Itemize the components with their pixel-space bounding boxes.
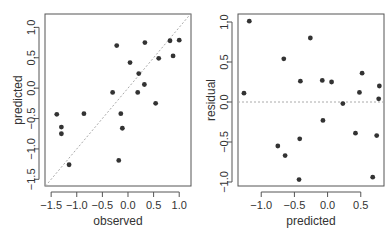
data-point xyxy=(54,112,59,117)
data-point xyxy=(308,36,313,41)
x-tick-label: −1.0 xyxy=(250,199,272,211)
data-point xyxy=(281,56,286,61)
data-point xyxy=(297,177,302,182)
x-tick-label: 0.0 xyxy=(120,199,135,211)
y-axis-label: predicted xyxy=(11,75,25,124)
x-axis: −1.0−0.50.00.5 xyxy=(250,192,368,211)
data-point xyxy=(297,136,302,141)
data-point xyxy=(242,91,247,96)
data-point xyxy=(377,84,382,89)
data-point xyxy=(329,80,334,85)
x-tick-label: −1.0 xyxy=(66,199,88,211)
data-point xyxy=(374,133,379,138)
data-point xyxy=(142,82,147,87)
x-tick-label: 0.5 xyxy=(353,199,368,211)
y-tick-label: 1.0 xyxy=(25,20,37,35)
data-point xyxy=(142,40,147,45)
data-point xyxy=(82,111,87,116)
figure: −1.5−1.0−0.50.00.51.0 −1.5−1.0−0.50.00.5… xyxy=(0,0,392,233)
x-tick-label: −0.5 xyxy=(92,199,114,211)
observed-vs-predicted-plot: −1.5−1.0−0.50.00.51.0 −1.5−1.0−0.50.00.5… xyxy=(11,14,191,228)
data-point xyxy=(340,101,345,106)
data-point xyxy=(128,60,133,65)
data-point xyxy=(168,38,173,43)
x-axis-label: observed xyxy=(93,214,142,228)
data-point xyxy=(320,78,325,83)
y-tick-label: 0.0 xyxy=(218,94,230,109)
x-tick-label: −0.5 xyxy=(284,199,306,211)
x-axis-label: predicted xyxy=(286,214,335,228)
data-point xyxy=(321,118,326,123)
data-point xyxy=(59,125,64,130)
x-tick-label: 0.5 xyxy=(146,199,161,211)
data-point xyxy=(156,56,161,61)
data-point xyxy=(136,71,141,76)
y-tick-label: −0.5 xyxy=(25,108,37,130)
data-point xyxy=(118,111,123,116)
y-tick-label: −1.5 xyxy=(25,168,37,190)
x-tick-label: −1.5 xyxy=(40,199,62,211)
data-point xyxy=(275,144,280,149)
y-tick-label: 1.0 xyxy=(218,14,230,29)
data-point xyxy=(376,96,381,101)
data-point xyxy=(360,71,365,76)
data-point xyxy=(370,175,375,180)
y-tick-label: 0.5 xyxy=(218,54,230,69)
data-point xyxy=(110,90,115,95)
data-point xyxy=(298,79,303,84)
data-point xyxy=(114,43,119,48)
data-point xyxy=(247,19,252,24)
data-point xyxy=(171,54,176,59)
y-tick-label: −1.0 xyxy=(218,171,230,193)
data-point xyxy=(283,153,288,158)
y-tick-label: −1.0 xyxy=(25,138,37,160)
x-axis: −1.5−1.0−0.50.00.51.0 xyxy=(40,192,187,211)
y-tick-label: 0.0 xyxy=(25,80,37,95)
data-point xyxy=(353,131,358,136)
y-axis-label: residual xyxy=(204,79,218,121)
residual-plot: −1.0−0.50.00.5 −1.0−0.50.00.51.0 predict… xyxy=(204,14,384,228)
data-point xyxy=(177,38,182,43)
data-point xyxy=(67,162,72,167)
data-points xyxy=(54,38,181,167)
data-point xyxy=(153,101,158,106)
data-point xyxy=(116,158,121,163)
x-tick-label: 0.0 xyxy=(320,199,335,211)
data-points xyxy=(242,19,382,182)
y-tick-label: 0.5 xyxy=(25,50,37,65)
x-tick-label: 1.0 xyxy=(172,199,187,211)
data-point xyxy=(59,131,64,136)
data-point xyxy=(135,90,140,95)
y-tick-label: −0.5 xyxy=(218,131,230,153)
y-axis: −1.5−1.0−0.50.00.51.0 xyxy=(25,20,39,190)
data-point xyxy=(120,126,125,131)
data-point xyxy=(357,90,362,95)
y-axis: −1.0−0.50.00.51.0 xyxy=(218,14,232,193)
